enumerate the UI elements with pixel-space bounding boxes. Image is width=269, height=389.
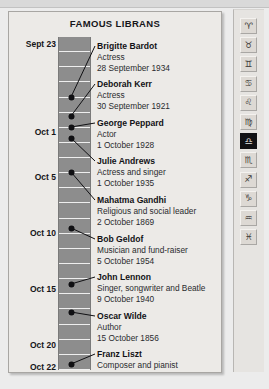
person-role: Actress — [97, 90, 222, 101]
day-segment — [59, 264, 90, 279]
day-segment — [59, 52, 90, 67]
person-entry: Bob GeldofMusician and fund-raiser5 Octo… — [97, 234, 222, 267]
person-entry: Franz LisztComposer and pianist22 Octobe… — [97, 349, 222, 373]
page-title: FAMOUS LIBRANS — [9, 18, 221, 29]
person-birth-date: 1 October 1928 — [97, 140, 222, 151]
person-role: Musician and fund-raiser — [97, 245, 222, 256]
day-segment — [59, 113, 90, 128]
day-segment — [59, 219, 90, 234]
aries-icon[interactable]: ♈ — [240, 18, 257, 34]
date-label: Oct 10 — [11, 228, 56, 238]
day-segment — [59, 204, 90, 219]
person-name: Franz Liszt — [97, 349, 222, 360]
person-role: Actress — [97, 52, 222, 63]
event-dot[interactable] — [69, 226, 74, 231]
day-segment — [59, 173, 90, 188]
person-entry: George PeppardActor1 October 1928 — [97, 118, 222, 151]
sagittarius-icon[interactable]: ♐ — [240, 172, 257, 188]
day-segment — [59, 325, 90, 340]
zodiac-glyph: ♍ — [244, 117, 252, 126]
page-root: FAMOUS LIBRANS Sept 23Oct 1Oct 5Oct 10Oc… — [0, 0, 269, 389]
event-dot[interactable] — [69, 362, 74, 367]
day-segment — [59, 234, 90, 249]
libra-icon[interactable]: ♎ — [240, 133, 257, 149]
day-segment — [59, 279, 90, 294]
pisces-icon[interactable]: ♓ — [240, 229, 257, 245]
zodiac-glyph: ♒ — [244, 213, 252, 222]
date-label: Oct 22 — [11, 362, 56, 372]
day-segment — [59, 249, 90, 264]
person-role: Singer, songwriter and Beatle — [97, 283, 222, 294]
person-birth-date: 30 September 1921 — [97, 101, 222, 112]
day-segment — [59, 67, 90, 82]
zodiac-glyph: ♋ — [244, 79, 252, 88]
date-label: Sept 23 — [11, 39, 56, 49]
event-dot[interactable] — [69, 95, 74, 100]
day-segment — [59, 340, 90, 355]
person-name: Mahatma Gandhi — [97, 195, 222, 206]
day-segment — [59, 309, 90, 324]
gemini-icon[interactable]: ♊ — [240, 56, 257, 72]
aquarius-icon[interactable]: ♒ — [240, 210, 257, 226]
leo-icon[interactable]: ♌ — [240, 95, 257, 111]
event-dot[interactable] — [69, 170, 74, 175]
person-name: George Peppard — [97, 118, 222, 129]
day-segment — [59, 98, 90, 113]
person-birth-date: 1 October 1935 — [97, 178, 222, 189]
zodiac-glyph: ♐ — [244, 175, 252, 184]
virgo-icon[interactable]: ♍ — [240, 114, 257, 130]
day-segment — [59, 158, 90, 173]
taurus-icon[interactable]: ♉ — [240, 37, 257, 53]
person-birth-date: 15 October 1856 — [97, 333, 222, 344]
date-label: Oct 15 — [11, 284, 56, 294]
event-dot[interactable] — [69, 125, 74, 130]
zodiac-glyph: ♑ — [244, 194, 252, 203]
person-birth-date: 9 October 1940 — [97, 294, 222, 305]
day-segment — [59, 128, 90, 143]
person-entry: Mahatma GandhiReligious and social leade… — [97, 195, 222, 228]
person-entry: John LennonSinger, songwriter and Beatle… — [97, 272, 222, 305]
zodiac-glyph: ♏ — [244, 155, 252, 164]
person-name: Julie Andrews — [97, 156, 222, 167]
zodiac-toolbar: ♈♉♊♋♌♍♎♏♐♑♒♓ — [233, 9, 264, 372]
day-segment — [59, 355, 90, 370]
day-segment — [59, 294, 90, 309]
person-entry: Deborah KerrActress30 September 1921 — [97, 79, 222, 112]
famous-librans-panel: FAMOUS LIBRANS Sept 23Oct 1Oct 5Oct 10Oc… — [8, 11, 222, 373]
person-entry: Julie AndrewsActress and singer1 October… — [97, 156, 222, 189]
person-entry: Oscar WildeAuthor15 October 1856 — [97, 311, 222, 344]
person-role: Actress and singer — [97, 167, 222, 178]
person-name: John Lennon — [97, 272, 222, 283]
day-segment — [59, 37, 90, 52]
person-entry: Brigitte BardotActress28 September 1934 — [97, 41, 222, 74]
top-strip — [0, 0, 269, 8]
person-name: Bob Geldof — [97, 234, 222, 245]
date-label: Oct 5 — [11, 172, 56, 182]
event-dot[interactable] — [69, 310, 74, 315]
zodiac-glyph: ♊ — [244, 59, 252, 68]
person-birth-date: 22 October 1811 — [97, 371, 222, 373]
person-role: Religious and social leader — [97, 206, 222, 217]
zodiac-glyph: ♓ — [244, 232, 252, 241]
person-birth-date: 2 October 1869 — [97, 217, 222, 228]
person-birth-date: 28 September 1934 — [97, 63, 222, 74]
zodiac-glyph: ♈ — [244, 21, 252, 30]
person-name: Deborah Kerr — [97, 79, 222, 90]
person-birth-date: 5 October 1954 — [97, 256, 222, 267]
capricorn-icon[interactable]: ♑ — [240, 191, 257, 207]
zodiac-glyph: ♌ — [244, 98, 252, 107]
day-bar — [58, 37, 91, 370]
event-dot[interactable] — [69, 136, 74, 141]
zodiac-glyph: ♎ — [244, 136, 252, 145]
day-segment — [59, 82, 90, 97]
person-role: Author — [97, 322, 222, 333]
day-segment — [59, 188, 90, 203]
cancer-icon[interactable]: ♋ — [240, 76, 257, 92]
event-dot[interactable] — [69, 282, 74, 287]
event-dot[interactable] — [69, 114, 74, 119]
scorpio-icon[interactable]: ♏ — [240, 152, 257, 168]
date-label: Oct 1 — [11, 127, 56, 137]
person-role: Composer and pianist — [97, 360, 222, 371]
person-name: Oscar Wilde — [97, 311, 222, 322]
day-segment — [59, 143, 90, 158]
